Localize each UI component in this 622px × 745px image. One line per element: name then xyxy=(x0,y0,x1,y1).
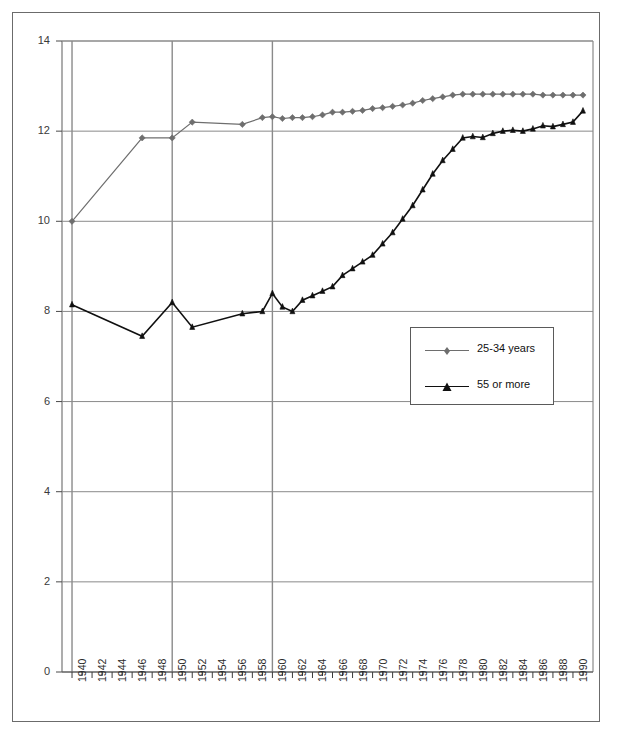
data-point-diamond xyxy=(400,102,406,108)
x-axis-tick-label: 1942 xyxy=(96,659,108,682)
data-point-diamond xyxy=(319,112,325,118)
series-line xyxy=(72,94,583,221)
x-axis-tick-label: 1984 xyxy=(517,659,529,682)
data-series-layer xyxy=(69,91,586,338)
data-point-diamond xyxy=(289,115,295,121)
data-point-diamond xyxy=(369,106,375,112)
data-point-diamond xyxy=(339,109,345,115)
x-axis-tick-label: 1940 xyxy=(76,659,88,682)
y-axis-ticks xyxy=(56,41,62,672)
series-line xyxy=(72,111,583,336)
legend-triangle-icon xyxy=(439,379,455,395)
y-axis-tick-label: 4 xyxy=(24,485,50,497)
data-point-diamond xyxy=(530,91,536,97)
series-1 xyxy=(69,91,586,224)
data-point-diamond xyxy=(560,92,566,98)
x-axis-tick-label: 1950 xyxy=(176,659,188,682)
data-point-diamond xyxy=(540,92,546,98)
x-axis-tick-label: 1964 xyxy=(316,659,328,682)
x-axis-tick-label: 1970 xyxy=(377,659,389,682)
data-point-diamond xyxy=(359,107,365,113)
x-axis-tick-label: 1958 xyxy=(256,659,268,682)
chart-page: 14121086420 1940194219441946194819501952… xyxy=(0,0,622,745)
x-axis-tick-label: 1974 xyxy=(417,659,429,682)
x-axis-tick-label: 1962 xyxy=(296,659,308,682)
data-point-triangle xyxy=(580,108,585,114)
data-point-diamond xyxy=(269,114,275,120)
legend-diamond-icon xyxy=(439,343,455,359)
data-point-diamond xyxy=(299,115,305,121)
x-axis-tick-label: 1968 xyxy=(357,659,369,682)
x-axis-tick-label: 1944 xyxy=(116,659,128,682)
data-point-diamond xyxy=(570,92,576,98)
data-point-triangle xyxy=(70,301,75,307)
x-axis-tick-label: 1956 xyxy=(236,659,248,682)
y-axis-tick-label: 6 xyxy=(24,395,50,407)
x-axis-tick-label: 1990 xyxy=(577,659,589,682)
data-point-triangle xyxy=(170,299,175,305)
data-point-diamond xyxy=(450,92,456,98)
y-axis-tick-label: 8 xyxy=(24,304,50,316)
x-axis-tick-label: 1952 xyxy=(196,659,208,682)
data-point-diamond xyxy=(550,92,556,98)
x-axis-tick-label: 1966 xyxy=(337,659,349,682)
y-axis-tick-label: 2 xyxy=(24,575,50,587)
legend-label: 25-34 years xyxy=(477,342,535,354)
x-axis-tick-label: 1954 xyxy=(216,659,228,682)
series-2 xyxy=(70,108,586,339)
x-axis-tick-label: 1980 xyxy=(477,659,489,682)
x-axis-tick-label: 1982 xyxy=(497,659,509,682)
x-axis-tick-label: 1988 xyxy=(557,659,569,682)
data-point-diamond xyxy=(259,115,265,121)
x-axis-tick-label: 1978 xyxy=(457,659,469,682)
data-point-diamond xyxy=(430,96,436,102)
data-point-diamond xyxy=(329,109,335,115)
data-point-diamond xyxy=(520,91,526,97)
data-point-diamond xyxy=(420,97,426,103)
data-point-diamond xyxy=(279,115,285,121)
data-point-diamond xyxy=(480,91,486,97)
chart-stage: 14121086420 1940194219441946194819501952… xyxy=(0,0,622,745)
data-point-diamond xyxy=(580,92,586,98)
x-axis-tick-label: 1986 xyxy=(537,659,549,682)
legend-label: 55 or more xyxy=(477,378,530,390)
data-point-diamond xyxy=(239,121,245,127)
data-point-diamond xyxy=(470,91,476,97)
legend-item: 55 or more xyxy=(411,374,553,400)
data-point-diamond xyxy=(460,91,466,97)
x-axis-tick-label: 1948 xyxy=(156,659,168,682)
data-point-diamond xyxy=(380,105,386,111)
data-point-diamond xyxy=(390,103,396,109)
y-axis-tick-label: 10 xyxy=(24,214,50,226)
y-axis-tick-label: 14 xyxy=(24,34,50,46)
x-axis-tick-label: 1972 xyxy=(397,659,409,682)
y-axis-tick-label: 0 xyxy=(24,665,50,677)
data-point-diamond xyxy=(510,91,516,97)
data-point-diamond xyxy=(490,91,496,97)
data-point-diamond xyxy=(440,94,446,100)
x-axis-tick-label: 1976 xyxy=(437,659,449,682)
x-axis-tick-label: 1946 xyxy=(136,659,148,682)
legend-item: 25-34 years xyxy=(411,338,553,364)
data-point-diamond xyxy=(500,91,506,97)
chart-legend: 25-34 years55 or more xyxy=(410,327,554,405)
data-point-diamond xyxy=(309,114,315,120)
y-axis-tick-label: 12 xyxy=(24,124,50,136)
data-point-diamond xyxy=(410,100,416,106)
x-axis-tick-label: 1960 xyxy=(276,659,288,682)
data-point-triangle xyxy=(270,290,275,296)
data-point-diamond xyxy=(349,108,355,114)
